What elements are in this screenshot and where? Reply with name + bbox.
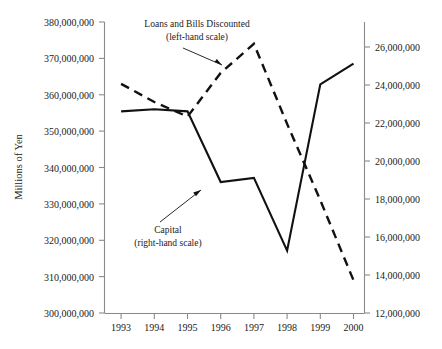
x-tick-label-1993: 1993	[111, 322, 131, 333]
x-tick-labels: 1993 1994 1995 1996 1997 1998 1999 2000	[111, 322, 363, 333]
left-tick-label-350m: 350,000,000	[44, 126, 94, 137]
x-tick-label-2000: 2000	[344, 322, 364, 333]
right-tick-label-12m: 12,000,000	[375, 308, 420, 319]
right-tick-label-18m: 18,000,000	[375, 194, 420, 205]
right-axis	[365, 22, 371, 313]
x-axis	[105, 314, 365, 320]
capital-annotation-group: Capital (right-hand scale)	[134, 190, 201, 249]
right-tick-label-20m: 20,000,000	[375, 156, 420, 167]
left-tick-label-340m: 340,000,000	[44, 163, 94, 174]
right-tick-label-14m: 14,000,000	[375, 270, 420, 281]
left-tick-label-310m: 310,000,000	[44, 272, 94, 283]
loans-annotation-line1: Loans and Bills Discounted	[144, 19, 250, 29]
loans-annotation-arrowhead	[215, 59, 222, 65]
series-line-capital	[121, 64, 353, 251]
loans-annotation-line2: (left-hand scale)	[166, 32, 228, 43]
capital-annotation-line2: (right-hand scale)	[134, 238, 201, 249]
x-tick-label-1999: 1999	[310, 322, 330, 333]
left-tick-label-330m: 330,000,000	[44, 199, 94, 210]
chart-figure: 380,000,000 370,000,000 360,000,000 350,…	[0, 0, 442, 349]
right-tick-label-16m: 16,000,000	[375, 232, 420, 243]
right-tick-label-26m: 26,000,000	[375, 42, 420, 53]
capital-annotation-line1: Capital	[154, 225, 182, 235]
right-tick-label-22m: 22,000,000	[375, 118, 420, 129]
x-tick-label-1994: 1994	[144, 322, 164, 333]
left-tick-labels: 380,000,000 370,000,000 360,000,000 350,…	[44, 17, 94, 319]
x-tick-label-1998: 1998	[277, 322, 297, 333]
left-tick-label-360m: 360,000,000	[44, 90, 94, 101]
x-tick-label-1997: 1997	[244, 322, 264, 333]
right-tick-label-24m: 24,000,000	[375, 80, 420, 91]
left-tick-label-370m: 370,000,000	[44, 53, 94, 64]
loans-annotation-group: Loans and Bills Discounted (left-hand sc…	[144, 19, 250, 65]
x-tick-label-1996: 1996	[211, 322, 231, 333]
dual-axis-line-chart: 380,000,000 370,000,000 360,000,000 350,…	[0, 0, 442, 349]
x-tick-label-1995: 1995	[178, 322, 198, 333]
capital-annotation-leader	[160, 190, 201, 222]
right-tick-labels: 26,000,000 24,000,000 22,000,000 20,000,…	[375, 42, 420, 319]
left-axis	[99, 22, 105, 313]
left-tick-label-380m: 380,000,000	[44, 17, 94, 28]
y-axis-title: Millions of Yen	[13, 133, 24, 199]
left-tick-label-320m: 320,000,000	[44, 235, 94, 246]
left-tick-label-300m: 300,000,000	[44, 308, 94, 319]
